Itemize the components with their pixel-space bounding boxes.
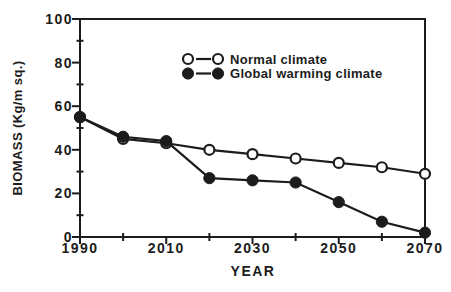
legend-label-global-warming-climate: Global warming climate	[230, 66, 383, 81]
y-tick-label: 40	[54, 142, 73, 158]
x-tick-label: 1990	[61, 240, 98, 256]
legend-item-global-warming-climate: Global warming climate	[182, 66, 382, 81]
legend-item-normal-climate: Normal climate	[183, 52, 327, 67]
data-point	[290, 177, 301, 188]
data-point	[74, 112, 85, 123]
data-point	[420, 169, 430, 179]
x-tick-label: 2030	[234, 240, 271, 256]
data-point	[118, 131, 129, 142]
legend: Normal climate Global warming climate	[182, 52, 382, 82]
data-point	[333, 197, 344, 208]
data-point	[161, 135, 172, 146]
open-circle-icon	[183, 54, 193, 64]
x-tick-label: 2070	[406, 240, 443, 256]
data-point	[377, 162, 387, 172]
filled-circle-icon	[212, 68, 223, 79]
y-tick-label: 100	[45, 11, 73, 27]
plot-area: 02040608010019902010203020502070	[45, 11, 443, 256]
data-point	[291, 154, 301, 164]
data-point	[247, 175, 258, 186]
data-point	[204, 145, 214, 155]
data-point	[248, 149, 258, 159]
open-circle-icon	[213, 54, 223, 64]
biomass-year-chart: 02040608010019902010203020502070 BIOMASS…	[0, 0, 451, 292]
x-tick-label: 2010	[148, 240, 185, 256]
chart-canvas: 02040608010019902010203020502070 BIOMASS…	[0, 0, 451, 292]
data-point	[419, 227, 430, 238]
y-tick-label: 80	[54, 55, 73, 71]
y-tick-label: 60	[54, 98, 73, 114]
y-tick-label: 20	[54, 185, 73, 201]
legend-label-normal-climate: Normal climate	[230, 52, 327, 67]
x-tick-label: 2050	[320, 240, 357, 256]
data-point	[376, 216, 387, 227]
y-axis-title: BIOMASS (Kg/m sq.)	[10, 60, 25, 195]
x-axis-title: YEAR	[231, 263, 276, 279]
data-point	[334, 158, 344, 168]
data-point	[204, 173, 215, 184]
series-line-0	[80, 117, 425, 174]
filled-circle-icon	[182, 68, 193, 79]
